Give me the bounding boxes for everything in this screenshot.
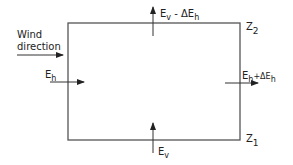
bottom-level-label: Z1 <box>246 133 259 148</box>
bottom-flux-label: Ev <box>158 146 169 160</box>
wind-label-line1: Wind <box>17 29 42 40</box>
top-flux-label: Ev - ΔEh <box>160 8 199 22</box>
top-level-label: Z2 <box>246 21 259 36</box>
control-volume-diagram: Wind direction Eh Ev - ΔEh Z2 Eh+ΔEh Ev … <box>0 0 293 165</box>
right-flux-label: Eh+ΔEh <box>242 70 276 84</box>
left-flux-label: Eh <box>45 69 56 83</box>
control-volume-box <box>68 23 240 140</box>
wind-label-line2: direction <box>17 41 61 52</box>
